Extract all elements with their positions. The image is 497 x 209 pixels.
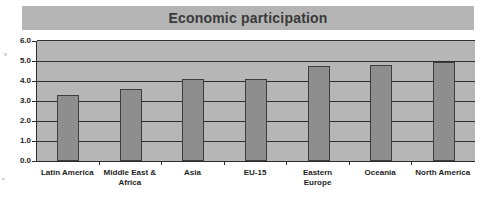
- y-axis-tick-mark: [32, 101, 36, 102]
- x-axis-category-label-line: Africa: [94, 178, 166, 188]
- x-axis-category-label-line: Eastern: [282, 168, 354, 178]
- x-axis-category-label-line: Oceania: [344, 168, 416, 178]
- x-axis-category-label: Asia: [156, 168, 228, 178]
- y-axis-tick-label: 1.0: [11, 136, 31, 145]
- x-axis-category-label: EU-15: [219, 168, 291, 178]
- chart-title-band: Economic participation: [22, 6, 474, 30]
- x-axis-tick-mark: [349, 161, 350, 165]
- x-axis-tick-mark: [99, 161, 100, 165]
- y-axis-tick-label: 4.0: [11, 76, 31, 85]
- x-axis-tick-mark: [161, 161, 162, 165]
- y-axis-tick-label: 5.0: [11, 56, 31, 65]
- bar: [433, 62, 455, 161]
- x-axis-category-label-line: Middle East &: [94, 168, 166, 178]
- y-axis-tick-label: 0.0: [11, 156, 31, 165]
- plot-top-border: [37, 40, 475, 41]
- y-axis-tick-label: 2.0: [11, 116, 31, 125]
- x-axis-category-label-line: North America: [407, 168, 479, 178]
- bar: [120, 89, 142, 161]
- x-axis-category-label-line: Europe: [282, 178, 354, 188]
- x-axis-category-label: Oceania: [344, 168, 416, 178]
- y-axis-tick-label: 6.0: [11, 36, 31, 45]
- x-axis-tick-mark: [411, 161, 412, 165]
- bar: [57, 95, 79, 161]
- x-axis-category-label: Middle East &Africa: [94, 168, 166, 188]
- chart-title: Economic participation: [22, 6, 474, 30]
- y-axis-tick-mark: [32, 121, 36, 122]
- bar-chart-figure: Economic participation 6.05.04.03.02.01.…: [0, 0, 497, 209]
- x-axis-category-label-line: Asia: [156, 168, 228, 178]
- gridline: [37, 61, 475, 62]
- x-axis-tick-mark: [224, 161, 225, 165]
- y-axis-tick-label: 3.0: [11, 96, 31, 105]
- bar: [182, 79, 204, 161]
- plot-area: [36, 41, 475, 162]
- bar: [245, 79, 267, 161]
- x-axis-category-label-line: EU-15: [219, 168, 291, 178]
- x-axis-category-label: EasternEurope: [282, 168, 354, 188]
- y-axis-tick-mark: [32, 81, 36, 82]
- scan-speckle: [4, 53, 7, 56]
- bar: [370, 65, 392, 161]
- y-axis-tick-mark: [32, 41, 36, 42]
- x-axis-category-label: Latin America: [31, 168, 103, 178]
- x-axis-tick-mark: [286, 161, 287, 165]
- bar: [308, 66, 330, 161]
- x-axis-category-label: North America: [407, 168, 479, 178]
- y-axis-tick-mark: [32, 61, 36, 62]
- y-axis-tick-mark: [32, 141, 36, 142]
- y-axis-tick-mark: [32, 161, 36, 162]
- scan-speckle: [2, 178, 5, 180]
- x-axis-category-label-line: Latin America: [31, 168, 103, 178]
